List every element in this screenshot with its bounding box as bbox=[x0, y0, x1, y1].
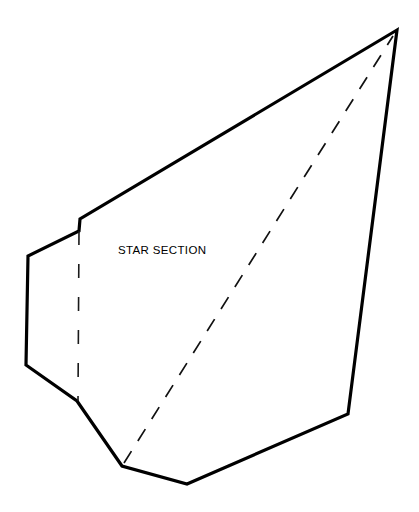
section-drawing-canvas: STAR SECTION bbox=[0, 0, 419, 512]
section-label: STAR SECTION bbox=[118, 244, 206, 256]
drawing-background bbox=[0, 0, 419, 512]
star-section-diagram: STAR SECTION bbox=[0, 0, 419, 512]
